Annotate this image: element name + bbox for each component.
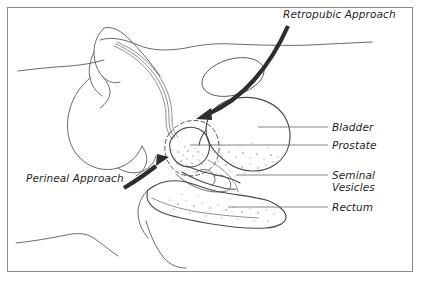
scrotum-outline (68, 78, 143, 170)
rectum-stipple (169, 194, 280, 222)
bladder-neck (199, 130, 206, 145)
label-prostate: Prostate (332, 139, 376, 152)
perineum-fold (136, 146, 147, 176)
retropubic-arrow-shaft (206, 26, 288, 115)
annotation-perineal-approach: Perineal Approach (26, 172, 124, 185)
annotation-retropubic-approach: Retropubic Approach (283, 8, 396, 21)
retropubic-arrow-head (196, 108, 212, 120)
label-seminal: Seminal (332, 169, 375, 182)
perineal-arrow-shaft (124, 166, 156, 188)
penis-shaft-outline-2 (104, 27, 160, 76)
prostate-approach-diagram: Retropubic Approach Perineal Approach Bl… (0, 0, 422, 281)
urethra-outer (114, 46, 172, 139)
ejaculatory-duct (176, 174, 226, 192)
prostate-stipple (171, 146, 206, 167)
abdominal-wall-contour (100, 38, 372, 50)
label-bladder: Bladder (332, 121, 373, 134)
label-rectum: Rectum (332, 201, 373, 214)
thigh-contour-upper (16, 234, 118, 256)
left-flank-contour (18, 60, 104, 71)
penis-shaft-outline (94, 28, 120, 83)
thigh-contour-lower (146, 221, 186, 268)
label-vesicles: Vesicles (332, 181, 375, 194)
